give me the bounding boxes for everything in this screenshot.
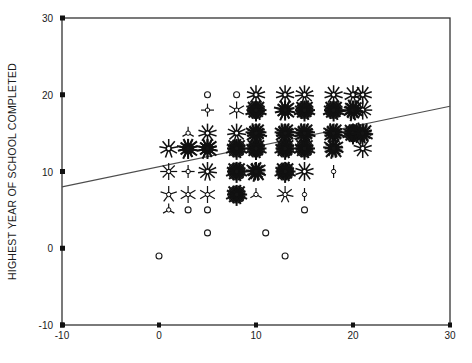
y-tick-label: 0 [47, 243, 53, 254]
y-axis-title: HIGHEST YEAR OF SCHOOL COMPLETED [6, 63, 18, 280]
y-tick-label: -10 [39, 320, 54, 331]
y-axis-title-text: HIGHEST YEAR OF SCHOOL COMPLETED [6, 63, 18, 280]
y-tick-label: 10 [42, 167, 54, 178]
x-tick-label: 10 [250, 330, 262, 341]
y-tick-label: 20 [42, 90, 54, 101]
y-axis-ticks: -100102030 [39, 13, 65, 331]
x-tick-label: 30 [444, 330, 456, 341]
scatter-plot-figure: -100102030 -100102030 HIGHEST YEAR OF SC… [0, 0, 472, 363]
x-tick-label: -10 [55, 330, 70, 341]
x-tick-label: 0 [156, 330, 162, 341]
y-tick-label: 30 [42, 13, 54, 24]
chart-canvas: -100102030 -100102030 HIGHEST YEAR OF SC… [0, 0, 472, 363]
x-tick-label: 20 [347, 330, 359, 341]
